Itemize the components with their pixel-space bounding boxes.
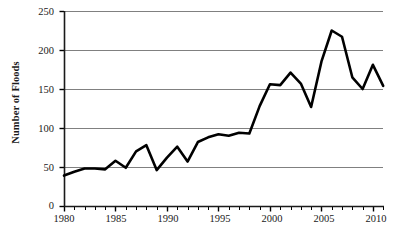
flood-line-chart: Number of Floods 250 200 150 100 50 0 19… <box>0 0 401 245</box>
plot-area <box>0 0 401 245</box>
data-line-number-of-floods <box>64 31 383 176</box>
y-axis-ticks <box>60 12 65 207</box>
gridlines <box>64 12 383 168</box>
